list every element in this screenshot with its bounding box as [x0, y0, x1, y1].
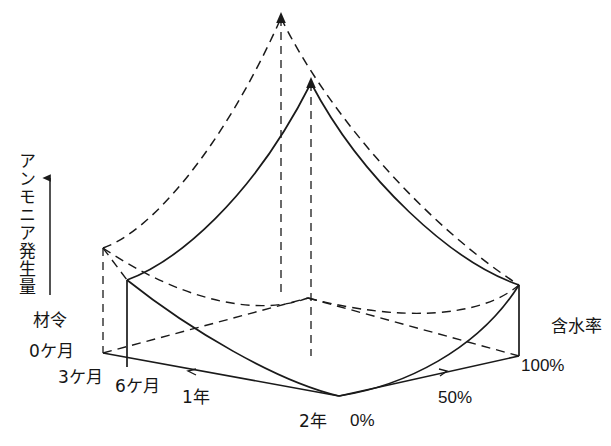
- tick-moisture-0: 0%: [350, 412, 375, 429]
- peak-arrowheads: [276, 12, 316, 88]
- base-edge-back-right: [308, 298, 519, 356]
- tick-moisture-100: 100%: [521, 357, 564, 374]
- tick-material-age-1: 3ケ月: [58, 369, 103, 386]
- surface-ridge-front: [127, 83, 519, 285]
- tick-material-age-4: 2年: [299, 413, 327, 430]
- surface-connector-left: [103, 248, 127, 280]
- tick-material-age-2: 6ケ月: [115, 378, 160, 395]
- value-axis-label: アンモニア発生量: [14, 152, 39, 296]
- tick-material-age-0: 0ケ月: [29, 343, 74, 360]
- base-edge-back-left: [103, 298, 308, 353]
- tick-moisture-50: 50%: [438, 389, 472, 406]
- tick-material-age-3: 1年: [182, 389, 210, 406]
- left-axis-title: 材令: [33, 312, 67, 329]
- right-axis-title: 含水率: [551, 318, 602, 335]
- figure-canvas: アンモニア発生量 材令 含水率 0ケ月 3ケ月 6ケ月 1年 2年 0% 50%…: [0, 0, 611, 446]
- surface-valley-curve: [127, 280, 519, 396]
